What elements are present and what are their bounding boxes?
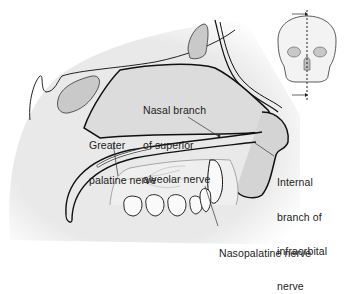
label-line: Greater: [89, 140, 156, 152]
inset-skull: [278, 10, 336, 100]
inset-orbit-left: [288, 47, 301, 57]
label-greater-palatine: Greater palatine nerve: [89, 117, 156, 209]
inset-orbit-right: [314, 47, 327, 57]
label-line: palatine nerve: [89, 175, 156, 187]
label-line: branch of: [277, 212, 327, 224]
label-line: Nasal branch: [143, 105, 210, 117]
label-nasopalatine: Nasopalatine nerve: [219, 225, 311, 283]
label-line: Nasopalatine nerve: [219, 248, 311, 260]
label-line: Internal: [277, 177, 327, 189]
nerve-point: [218, 135, 221, 138]
